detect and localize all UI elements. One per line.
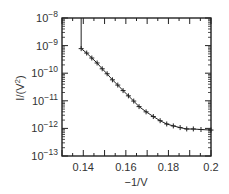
svg-text:10−8: 10−8 xyxy=(36,9,58,24)
x-tick-labels: 0.140.160.180.2 xyxy=(73,161,219,173)
svg-text:0.16: 0.16 xyxy=(115,161,136,173)
svg-text:10−9: 10−9 xyxy=(36,37,58,52)
y-axis-label: I/(V2) xyxy=(13,75,26,100)
svg-text:0.18: 0.18 xyxy=(158,161,179,173)
svg-text:10−12: 10−12 xyxy=(31,119,58,134)
data-markers xyxy=(79,46,214,132)
minor-ticks xyxy=(62,18,211,156)
svg-text:0.2: 0.2 xyxy=(203,161,218,173)
major-ticks xyxy=(62,18,211,156)
x-axis-label: −1/V xyxy=(125,176,149,188)
chart: 10−810−910−1010−1110−1210−13 0.140.160.1… xyxy=(0,0,229,194)
plot-frame xyxy=(62,18,211,156)
data-line xyxy=(81,49,211,131)
svg-text:10−11: 10−11 xyxy=(32,92,58,107)
svg-text:0.14: 0.14 xyxy=(73,161,94,173)
svg-text:10−13: 10−13 xyxy=(31,147,58,162)
svg-text:10−10: 10−10 xyxy=(31,64,58,79)
y-tick-labels: 10−810−910−1010−1110−1210−13 xyxy=(31,9,58,162)
